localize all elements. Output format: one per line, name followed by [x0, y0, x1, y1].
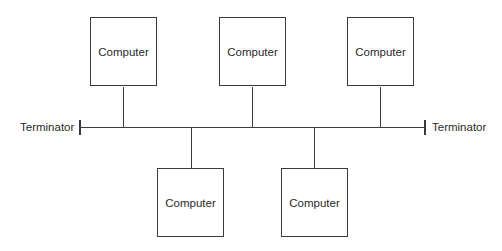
connector-computer-1 — [123, 87, 124, 127]
computer-node-3: Computer — [347, 17, 414, 86]
computer-label: Computer — [98, 46, 149, 58]
terminator-left-bar — [79, 120, 81, 135]
computer-node-1: Computer — [90, 17, 157, 86]
computer-label: Computer — [227, 46, 278, 58]
bus-line — [80, 127, 426, 128]
terminator-left-label: Terminator — [20, 120, 74, 134]
computer-node-5: Computer — [281, 168, 348, 237]
terminator-right-bar — [424, 120, 426, 135]
connector-computer-3 — [380, 87, 381, 127]
computer-node-2: Computer — [219, 17, 286, 86]
computer-label: Computer — [289, 197, 340, 209]
computer-label: Computer — [165, 197, 216, 209]
connector-computer-5 — [314, 127, 315, 168]
connector-computer-2 — [252, 87, 253, 127]
connector-computer-4 — [191, 127, 192, 168]
computer-label: Computer — [355, 46, 406, 58]
computer-node-4: Computer — [157, 168, 224, 237]
terminator-right-label: Terminator — [432, 120, 486, 134]
